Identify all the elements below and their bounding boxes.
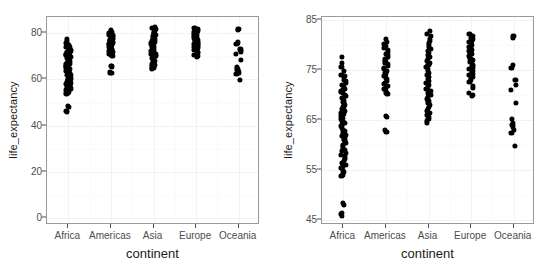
gridline-minor-vertical bbox=[365, 17, 366, 223]
y-tick-mark bbox=[42, 32, 46, 33]
data-point bbox=[513, 100, 518, 105]
y-tick-label: 40 bbox=[31, 119, 42, 130]
y-tick-mark bbox=[317, 219, 321, 220]
x-tick-label: Asia bbox=[143, 230, 162, 241]
x-axis-title-right: continent bbox=[321, 246, 534, 261]
x-tick-mark bbox=[195, 224, 196, 228]
data-point bbox=[110, 53, 115, 58]
x-tick-label: Africa bbox=[55, 230, 81, 241]
gridline-major-horizontal bbox=[322, 170, 533, 171]
data-point bbox=[384, 129, 389, 134]
x-tick-mark bbox=[238, 224, 239, 228]
y-tick-label: 75 bbox=[306, 64, 317, 75]
y-axis-title-left-text: life_expectancy bbox=[7, 81, 19, 158]
x-tick-labels-left: AfricaAmericasAsiaEuropeOceania bbox=[46, 230, 259, 246]
figure-container: life_expectancy 020406080 AfricaAmericas… bbox=[0, 0, 550, 273]
gridline-minor-horizontal bbox=[47, 149, 258, 150]
x-tick-mark bbox=[470, 224, 471, 228]
y-tick-label: 80 bbox=[31, 27, 42, 38]
y-tick-mark bbox=[42, 78, 46, 79]
gridline-major-horizontal bbox=[47, 126, 258, 127]
y-tick-mark bbox=[42, 124, 46, 125]
y-axis-title-right-text: life_expectancy bbox=[282, 81, 294, 158]
y-tick-label: 85 bbox=[306, 14, 317, 25]
gridline-major-horizontal bbox=[322, 220, 533, 221]
gridline-major-horizontal bbox=[322, 20, 533, 21]
x-tick-label: Asia bbox=[418, 230, 437, 241]
gridline-minor-horizontal bbox=[47, 195, 258, 196]
data-point bbox=[469, 93, 474, 98]
panel-left bbox=[46, 16, 259, 224]
data-point bbox=[512, 143, 517, 148]
x-tick-label: Europe bbox=[454, 230, 486, 241]
plot-right: life_expectancy 4555657585 AfricaAmerica… bbox=[275, 0, 550, 273]
data-point bbox=[109, 71, 114, 76]
gridline-minor-horizontal bbox=[322, 195, 533, 196]
data-point bbox=[109, 64, 114, 69]
y-tick-label: 65 bbox=[306, 114, 317, 125]
data-point bbox=[513, 82, 518, 87]
y-tick-label: 60 bbox=[31, 73, 42, 84]
x-tick-label: Europe bbox=[179, 230, 211, 241]
data-point bbox=[341, 202, 346, 207]
x-tick-label: Americas bbox=[89, 230, 131, 241]
gridline-minor-vertical bbox=[407, 17, 408, 223]
y-tick-mark bbox=[317, 19, 321, 20]
y-tick-mark bbox=[42, 170, 46, 171]
plot-left: life_expectancy 020406080 AfricaAmericas… bbox=[0, 0, 275, 273]
gridline-minor-vertical bbox=[492, 17, 493, 223]
gridline-minor-vertical bbox=[217, 17, 218, 223]
y-tick-label: 20 bbox=[31, 165, 42, 176]
data-point bbox=[238, 57, 243, 62]
x-tick-mark bbox=[385, 224, 386, 228]
x-tick-mark bbox=[513, 224, 514, 228]
x-tick-marks-left bbox=[46, 224, 259, 229]
x-tick-labels-right: AfricaAmericasAsiaEuropeOceania bbox=[321, 230, 534, 246]
x-tick-label: Oceania bbox=[219, 230, 256, 241]
data-point bbox=[384, 114, 389, 119]
y-tick-labels-right: 4555657585 bbox=[295, 16, 317, 224]
gridline-minor-horizontal bbox=[322, 145, 533, 146]
gridline-minor-vertical bbox=[132, 17, 133, 223]
y-tick-mark bbox=[42, 217, 46, 218]
x-tick-label: Africa bbox=[330, 230, 356, 241]
y-tick-label: 55 bbox=[306, 164, 317, 175]
gridline-major-horizontal bbox=[47, 218, 258, 219]
x-tick-mark bbox=[428, 224, 429, 228]
y-tick-mark bbox=[317, 169, 321, 170]
panel-right bbox=[321, 16, 534, 224]
gridline-minor-vertical bbox=[175, 17, 176, 223]
y-tick-label: 45 bbox=[306, 214, 317, 225]
x-tick-label: Americas bbox=[364, 230, 406, 241]
y-tick-mark bbox=[317, 119, 321, 120]
y-tick-labels-left: 020406080 bbox=[20, 16, 42, 224]
gridline-major-horizontal bbox=[47, 172, 258, 173]
y-tick-mark bbox=[317, 69, 321, 70]
data-point bbox=[340, 54, 345, 59]
x-tick-label: Oceania bbox=[494, 230, 531, 241]
x-tick-mark bbox=[67, 224, 68, 228]
data-point bbox=[237, 77, 242, 82]
gridline-major-horizontal bbox=[47, 79, 258, 80]
x-axis-title-left: continent bbox=[46, 246, 259, 261]
x-tick-marks-right bbox=[321, 224, 534, 229]
x-tick-mark bbox=[342, 224, 343, 228]
gridline-minor-vertical bbox=[450, 17, 451, 223]
x-tick-mark bbox=[110, 224, 111, 228]
gridline-minor-vertical bbox=[90, 17, 91, 223]
data-point bbox=[194, 54, 199, 59]
x-tick-mark bbox=[153, 224, 154, 228]
gridline-minor-horizontal bbox=[47, 103, 258, 104]
data-point bbox=[470, 85, 475, 90]
